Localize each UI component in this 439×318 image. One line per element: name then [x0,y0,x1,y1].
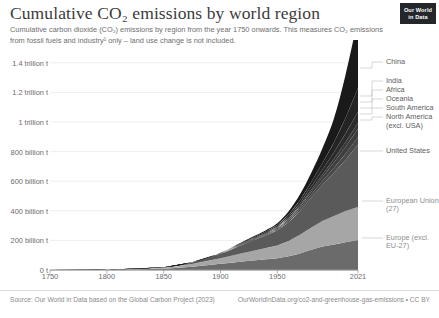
legend-label-south-america[interactable]: South America [386,103,433,112]
legend-leader-lines [360,62,383,238]
x-axis-tick-label: 1950 [269,272,285,281]
chart-page: Cumulative CO₂ emissions by world region… [0,0,439,318]
legend-label-india[interactable]: India [386,76,402,85]
x-axis-tick-labels: 175018001850190019502021 [0,272,439,286]
legend-label-china[interactable]: China [386,57,405,66]
legend-label-north-america-2[interactable]: (excl. USA) [386,121,423,130]
legend-label-north-america[interactable]: North America [386,112,432,121]
our-world-in-data-logo[interactable]: Our World in Data [400,3,436,24]
chart-footer: Source: Our World in Data based on the G… [0,290,439,312]
x-axis-tick-label: 1900 [212,272,228,281]
legend-label-europe-excl-2[interactable]: EU-27) [386,241,409,250]
legend-leader-line [360,62,383,68]
legend-label-africa[interactable]: Africa [386,85,405,94]
legend-leader-line [360,117,383,120]
legend-leader-line [360,99,383,108]
y-axis-tick-label: 200 billion t [11,236,48,245]
legend-leader-line [360,108,383,114]
x-axis-tick-label: 1850 [155,272,171,281]
attribution-note[interactable]: OurWorldInData.org/co2-and-greenhouse-ga… [238,296,430,303]
chart-plot-area: 0 t200 billion t400 billion t600 billion… [0,40,439,285]
legend-label-european-union-2[interactable]: (27) [386,204,399,213]
x-axis-tick-label: 2021 [350,272,366,281]
y-axis-tick-labels: 0 t200 billion t400 billion t600 billion… [0,40,48,285]
y-axis-tick-label: 600 billion t [11,177,48,186]
logo-line-2: in Data [400,14,436,21]
area-series-group [50,40,358,270]
page-title: Cumulative CO₂ emissions by world region [10,4,392,22]
legend-label-united-states[interactable]: United States [386,146,430,155]
y-axis-tick-label: 1.2 trillion t [12,88,48,97]
source-note: Source: Our World in Data based on the G… [10,296,215,303]
y-axis-tick-label: 400 billion t [11,206,48,215]
x-axis-tick-label: 1800 [99,272,115,281]
legend-label-oceania[interactable]: Oceania [386,94,413,103]
x-axis-tick-label: 1750 [42,272,58,281]
y-axis-tick-label: 1.4 trillion t [12,58,48,67]
y-axis-tick-label: 800 billion t [11,147,48,156]
subtitle-line-1: Cumulative carbon dioxide (CO₂) emission… [10,25,383,34]
y-axis-tick-label: 1 trillion t [18,118,48,127]
logo-line-1: Our World [400,7,436,14]
legend-leader-line [360,81,383,96]
stacked-area-chart[interactable] [0,40,439,285]
